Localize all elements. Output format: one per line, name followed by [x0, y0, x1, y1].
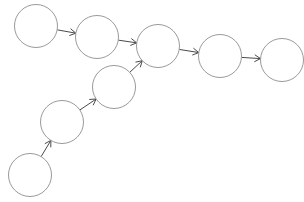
- graph-canvas: [0, 0, 304, 202]
- graph-node-n2: [76, 16, 119, 59]
- graph-node-n8: [9, 154, 52, 197]
- edge-arrow: [57, 29, 76, 36]
- graph-node-n3: [137, 25, 180, 68]
- edge-arrow: [241, 55, 260, 62]
- edge-arrow: [179, 48, 199, 55]
- edge-arrow: [41, 140, 51, 156]
- edge-line: [241, 57, 260, 58]
- graph-node-n6: [93, 66, 136, 109]
- nodes-layer: [9, 5, 304, 197]
- edge-arrow: [80, 99, 96, 110]
- graph-node-n1: [15, 5, 58, 48]
- edge-arrow: [130, 61, 143, 73]
- graph-node-n7: [41, 101, 84, 144]
- graph-node-n4: [199, 35, 242, 78]
- edge-arrow: [118, 39, 136, 46]
- graph-node-n5: [261, 39, 304, 82]
